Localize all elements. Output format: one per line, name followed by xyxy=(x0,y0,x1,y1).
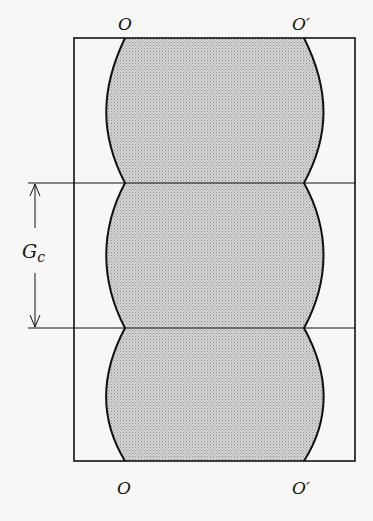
label-top-left: O xyxy=(118,14,132,34)
shaded-region xyxy=(106,38,323,461)
label-bottom-right: O′ xyxy=(292,478,310,498)
label-top-right: O′ xyxy=(292,14,310,34)
diagram-canvas: Gc O O′ O O′ xyxy=(0,0,373,521)
label-bottom-left: O xyxy=(117,478,131,498)
dimension-label: Gc xyxy=(22,240,45,265)
